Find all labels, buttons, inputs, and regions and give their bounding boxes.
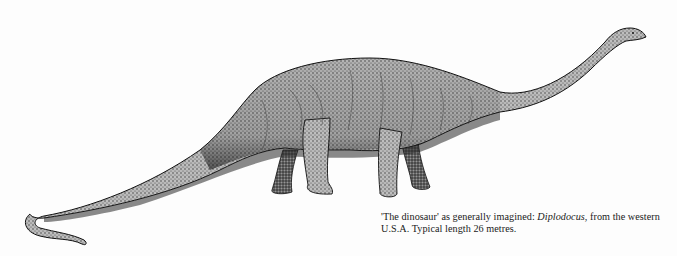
caption-text-lead: 'The dinosaur' as generally imagined: bbox=[381, 211, 537, 222]
figure-caption: 'The dinosaur' as generally imagined: Di… bbox=[381, 211, 671, 235]
eye bbox=[632, 32, 634, 34]
dinosaur-figure: 'The dinosaur' as generally imagined: Di… bbox=[0, 0, 677, 256]
caption-species-name: Diplodocus bbox=[537, 211, 584, 222]
